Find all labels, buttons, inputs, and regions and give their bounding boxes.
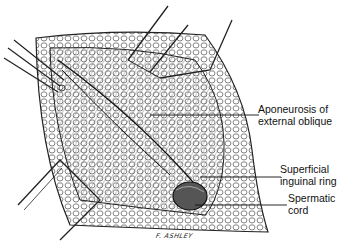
label-spermatic-cord: Spermatic cord [288,192,335,216]
label-aponeurosis-external-oblique: Aponeurosis of external oblique [258,103,332,127]
label-line: cord [288,204,335,216]
label-line: inguinal ring [280,175,337,187]
label-line: Superficial [280,163,337,175]
label-line: Spermatic [288,192,335,204]
label-line: Aponeurosis of [258,103,332,115]
artist-signature: F. ASHLEY [155,232,193,240]
label-superficial-inguinal-ring: Superficial inguinal ring [280,163,337,187]
spermatic-cord [173,182,207,210]
label-line: external oblique [258,115,332,127]
